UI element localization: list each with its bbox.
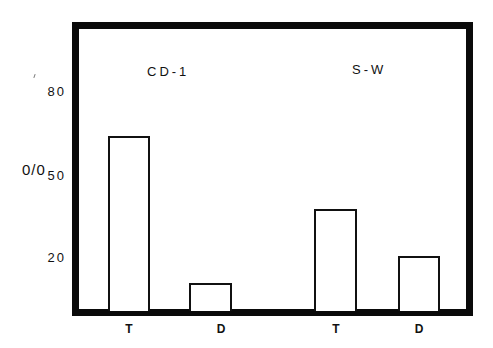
x-tick-cd1-d: D bbox=[217, 322, 226, 336]
y-tick-50: 50 bbox=[26, 168, 66, 183]
bar-cd1-t bbox=[108, 136, 150, 311]
x-tick-sw-d: D bbox=[415, 322, 424, 336]
scan-speck bbox=[33, 74, 35, 78]
group-label-sw: S-W bbox=[352, 62, 386, 77]
group-label-cd1: CD-1 bbox=[147, 64, 189, 79]
y-tick-20: 20 bbox=[26, 250, 66, 265]
x-tick-sw-t: T bbox=[332, 322, 339, 336]
plot-frame: CD-1 S-W bbox=[72, 22, 473, 316]
bar-sw-d bbox=[398, 256, 440, 311]
bar-cd1-d bbox=[189, 283, 232, 311]
x-tick-cd1-t: T bbox=[125, 322, 132, 336]
y-tick-80: 80 bbox=[26, 84, 66, 99]
bar-sw-t bbox=[314, 209, 357, 311]
